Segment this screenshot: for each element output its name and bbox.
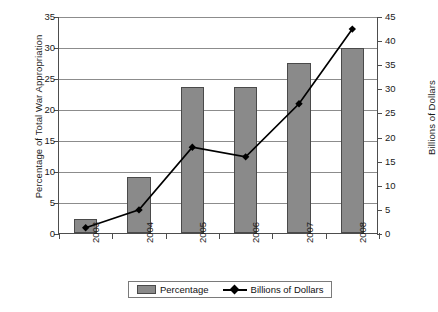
- bar-swatch-icon: [137, 285, 156, 294]
- y-tick-right: [377, 41, 382, 42]
- x-tick-label: 2005: [197, 222, 208, 243]
- line-series: [59, 17, 379, 234]
- x-tick-label: 2006: [250, 222, 261, 243]
- legend-item-billions: Billions of Dollars: [223, 284, 324, 295]
- legend-label-percentage: Percentage: [160, 284, 209, 295]
- x-tick: [166, 233, 167, 239]
- gridline: [59, 141, 377, 142]
- y-tick-right: [377, 17, 382, 18]
- data-point-marker: [349, 25, 356, 32]
- y-tick-right: [377, 65, 382, 66]
- y-tick-right: [377, 138, 382, 139]
- y-tick-label-left: 30: [31, 43, 55, 53]
- legend-label-billions: Billions of Dollars: [251, 284, 324, 295]
- chart-figure: Percentage of Total War Appropriation Bi…: [0, 0, 438, 312]
- y-tick-right: [377, 210, 382, 211]
- diamond-icon: [229, 285, 239, 295]
- y-tick-label-right: 30: [385, 84, 409, 94]
- x-tick-label: 2003: [90, 222, 101, 243]
- y-tick-label-right: 25: [385, 108, 409, 118]
- x-tick-label: 2004: [144, 222, 155, 243]
- line-marker-icon: [223, 285, 247, 294]
- line-path: [86, 29, 353, 228]
- y-tick-right: [377, 113, 382, 114]
- y-tick-label-right: 40: [385, 36, 409, 46]
- y-tick-label-right: 45: [385, 12, 409, 22]
- y-tick-label-left: 25: [31, 74, 55, 84]
- gridline: [59, 79, 377, 80]
- y-tick-label-left: 35: [31, 12, 55, 22]
- y-tick-right: [377, 89, 382, 90]
- y-tick-label-right: 35: [385, 60, 409, 70]
- y-tick-label-right: 10: [385, 181, 409, 191]
- legend-item-percentage: Percentage: [137, 284, 209, 295]
- y-tick-right: [377, 186, 382, 187]
- y-tick-right: [377, 162, 382, 163]
- y-tick-label-right: 15: [385, 157, 409, 167]
- bar: [234, 87, 257, 233]
- y-tick-label-left: 15: [31, 136, 55, 146]
- y-tick-label-left: 20: [31, 105, 55, 115]
- gridline: [59, 172, 377, 173]
- y-tick-label-left: 0: [31, 229, 55, 239]
- legend: Percentage Billions of Dollars: [128, 281, 332, 298]
- y-tick-label-right: 5: [385, 205, 409, 215]
- x-tick: [59, 233, 60, 239]
- bar: [341, 48, 364, 233]
- y-tick-label-left: 10: [31, 167, 55, 177]
- x-tick-label: 2007: [304, 222, 315, 243]
- plot-area: 05101520253035 051015202530354045 200320…: [58, 17, 378, 234]
- x-tick: [379, 233, 380, 239]
- gridline: [59, 17, 377, 18]
- x-tick-label: 2008: [357, 222, 368, 243]
- x-tick: [112, 233, 113, 239]
- y-tick-label-right: 0: [385, 229, 409, 239]
- y-tick-label-right: 20: [385, 133, 409, 143]
- x-tick: [219, 233, 220, 239]
- bar: [181, 87, 204, 233]
- bar: [287, 63, 310, 234]
- y-axis-title-right: Billions of Dollars: [426, 18, 437, 218]
- x-tick: [326, 233, 327, 239]
- gridline: [59, 48, 377, 49]
- gridline: [59, 203, 377, 204]
- y-tick-label-left: 5: [31, 198, 55, 208]
- x-tick: [272, 233, 273, 239]
- gridline: [59, 110, 377, 111]
